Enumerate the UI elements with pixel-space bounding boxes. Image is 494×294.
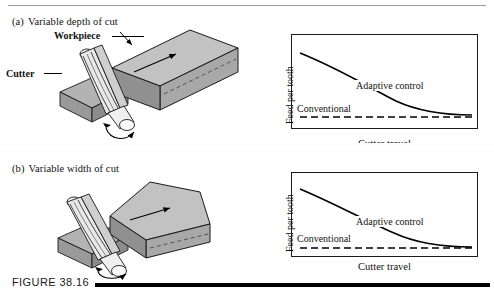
page-top-rule	[8, 5, 486, 6]
panel-b-title: Variable width of cut	[29, 163, 119, 174]
chart-b-conventional-label: Conventional	[296, 233, 352, 244]
figure-caption: FIGURE 38.16	[12, 276, 89, 288]
chart-b-adaptive-control-label: Adaptive control	[355, 216, 424, 227]
scan-artifact-band-secondary	[0, 149, 494, 153]
chart-a-adaptive-control-label: Adaptive control	[355, 80, 424, 91]
workpiece-block	[112, 30, 238, 110]
panel-b-tag: (b)	[12, 163, 25, 174]
cutter-leader-line	[44, 73, 62, 74]
figure-caption-rule	[95, 283, 490, 287]
illustration-variable-depth-of-cut	[50, 24, 250, 146]
chart-b-x-axis-label: Cutter travel	[291, 261, 478, 272]
panel-a-tag: (a)	[12, 16, 24, 27]
chart-a-y-axis-label: Feed per tooth	[284, 66, 295, 124]
panel-b-heading: (b)Variable width of cut	[12, 163, 119, 174]
workpiece-leader-line	[112, 36, 144, 37]
cutter-callout-label: Cutter	[6, 68, 34, 79]
illustration-variable-width-of-cut	[42, 178, 252, 284]
chart-variable-width-of-cut	[291, 172, 478, 257]
chart-b-y-axis-label: Feed per tooth	[284, 194, 295, 252]
chart-a-conventional-label: Conventional	[296, 103, 352, 114]
